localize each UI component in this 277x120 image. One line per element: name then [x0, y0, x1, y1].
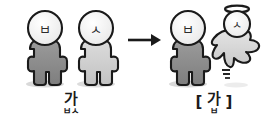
head-glyph-bieup: ㅂ — [39, 22, 51, 37]
consonant-simplification-diagram: ㅂ ㅅ 가 ㅂㅅ ㅂ — [0, 0, 277, 120]
right-bracket: ] — [226, 93, 233, 111]
head-glyph-siot: ㅅ — [90, 22, 102, 37]
diagram-canvas: ㅂ ㅅ 가 ㅂㅅ ㅂ — [0, 0, 277, 120]
left-bracket: [ — [196, 93, 203, 111]
head-glyph-siot: ㅅ — [232, 19, 242, 32]
right-label-batchim: ㅂ — [210, 106, 218, 116]
ghost-faded-shadow — [224, 82, 248, 87]
head-glyph-bieup: ㅂ — [182, 22, 194, 37]
left-label-batchim: ㅂㅅ — [63, 106, 79, 116]
